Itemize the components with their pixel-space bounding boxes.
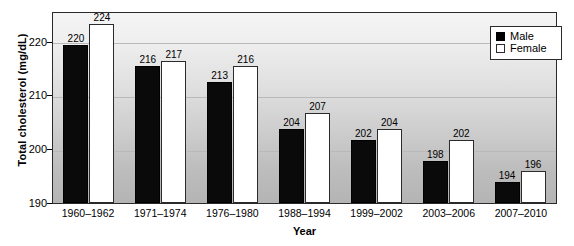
x-tick-label: 1999–2002 xyxy=(341,207,413,219)
bar-value-label: 196 xyxy=(525,159,542,170)
x-tick-label: 2003–2006 xyxy=(413,207,485,219)
bar-value-label: 216 xyxy=(237,54,254,65)
bar-female: 216 xyxy=(233,66,258,203)
bar-male: 194 xyxy=(495,182,520,203)
bar-group: 213216 xyxy=(197,13,269,203)
y-axis-ticks: 220 210 200 190 xyxy=(14,0,47,246)
legend-item-male: Male xyxy=(496,31,556,42)
y-tick-label: 200 xyxy=(17,144,47,154)
bar-value-label: 194 xyxy=(499,170,516,181)
legend-swatch-male-icon xyxy=(496,32,505,41)
x-axis-ticks: 1960–19621971–19741976–19801988–19941999… xyxy=(52,207,557,219)
legend-item-female: Female xyxy=(496,43,556,54)
bar-male: 216 xyxy=(135,66,160,203)
bar-series-container: 2202242162172132162042072022041982021941… xyxy=(53,13,556,203)
bar-value-label: 202 xyxy=(355,128,372,139)
y-tick-label: 220 xyxy=(17,37,47,47)
y-tick-label: 190 xyxy=(17,198,47,208)
x-tick-label: 1988–1994 xyxy=(268,207,340,219)
bar-female: 217 xyxy=(161,61,186,204)
bar-value-label: 217 xyxy=(165,49,182,60)
x-tick-label: 1960–1962 xyxy=(52,207,124,219)
x-tick-label: 1971–1974 xyxy=(124,207,196,219)
x-axis-title: Year xyxy=(52,225,557,237)
x-tick-label: 1976–1980 xyxy=(196,207,268,219)
bar-female: 196 xyxy=(521,171,546,203)
bar-group: 220224 xyxy=(53,13,125,203)
bar-value-label: 198 xyxy=(427,149,444,160)
bar-group: 216217 xyxy=(125,13,197,203)
bar-female: 204 xyxy=(377,129,402,203)
bar-group: 202204 xyxy=(340,13,412,203)
bar-value-label: 202 xyxy=(453,128,470,139)
bar-value-label: 204 xyxy=(381,117,398,128)
legend-label-male: Male xyxy=(510,31,534,42)
bar-female: 202 xyxy=(449,140,474,203)
y-tick-label: 210 xyxy=(17,90,47,100)
bar-group: 204207 xyxy=(269,13,341,203)
bar-male: 204 xyxy=(279,129,304,203)
bar-value-label: 220 xyxy=(68,33,85,44)
bar-male: 220 xyxy=(63,45,88,203)
x-tick-label: 2007–2010 xyxy=(485,207,557,219)
chart-legend: Male Female xyxy=(490,26,562,60)
bar-female: 207 xyxy=(305,113,330,203)
bar-value-label: 216 xyxy=(139,54,156,65)
bar-male: 213 xyxy=(207,82,232,203)
bar-group: 198202 xyxy=(412,13,484,203)
legend-swatch-female-icon xyxy=(496,44,505,53)
plot-area: 2202242162172132162042072022041982021941… xyxy=(52,12,557,204)
bar-male: 202 xyxy=(351,140,376,203)
bar-value-label: 224 xyxy=(94,12,111,23)
legend-label-female: Female xyxy=(510,43,547,54)
bar-male: 198 xyxy=(423,161,448,203)
bar-value-label: 213 xyxy=(211,70,228,81)
bar-value-label: 207 xyxy=(309,101,326,112)
bar-female: 224 xyxy=(89,24,114,203)
chart-figure: Total cholesterol (mg/dL) 220 210 200 19… xyxy=(0,0,574,246)
bar-value-label: 204 xyxy=(283,117,300,128)
